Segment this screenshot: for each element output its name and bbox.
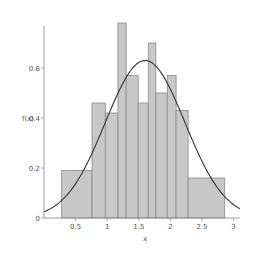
x-tick-label: 3 [231, 223, 235, 231]
y-tick-label: 0.6 [29, 65, 41, 73]
histogram-chart: 0.511.522.53 00.20.40.6 x f(x) [0, 0, 254, 254]
histogram-bar [62, 171, 92, 219]
y-axis-label: f(x) [22, 115, 34, 123]
histogram-bar [156, 93, 167, 218]
y-tick-label: 0 [36, 215, 40, 223]
x-tick-label: 1.5 [133, 223, 144, 231]
histogram-bars [62, 23, 225, 218]
x-tick-label: 2 [168, 223, 172, 231]
y-tick-label: 0.2 [29, 165, 40, 173]
y-axis-ticks: 00.20.40.6 [29, 65, 44, 223]
histogram-bar [126, 76, 138, 219]
histogram-bar [118, 23, 126, 218]
x-tick-label: 2.5 [196, 223, 207, 231]
histogram-bar [167, 76, 176, 219]
histogram-bar [138, 103, 148, 218]
histogram-bar [148, 43, 156, 218]
x-tick-label: 1 [105, 223, 109, 231]
x-axis-ticks: 0.511.522.53 [70, 218, 236, 231]
histogram-bar [188, 178, 225, 218]
histogram-bar [92, 103, 105, 218]
x-axis-label: x [143, 235, 147, 243]
histogram-bar [105, 113, 118, 218]
x-tick-label: 0.5 [70, 223, 81, 231]
